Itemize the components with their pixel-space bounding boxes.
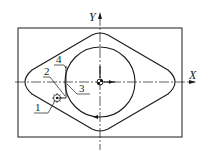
label-1: 1 xyxy=(35,101,41,113)
x-axis-label: X xyxy=(188,68,197,82)
leader-4 xyxy=(54,65,66,68)
leader-2 xyxy=(43,77,65,96)
y-axis-label: Y xyxy=(89,10,97,24)
label-2: 2 xyxy=(44,65,50,77)
label-3: 3 xyxy=(79,82,85,94)
toolpath-diagram: Y X 4 2 3 1 xyxy=(0,0,209,151)
direction-arrow-icon xyxy=(93,115,98,119)
label-4: 4 xyxy=(56,53,62,65)
y-axis-arrow-icon xyxy=(98,12,102,19)
